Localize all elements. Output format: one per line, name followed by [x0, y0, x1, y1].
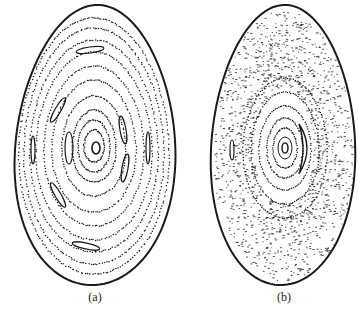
panel-a-poincare-plot: [15, 5, 176, 285]
panel-b-poincare-plot: [211, 5, 356, 285]
panel-b-caption: (b): [264, 290, 304, 305]
panel-a-caption: (a): [75, 290, 115, 305]
poincare-plots: [0, 0, 358, 315]
poincare-figure: (a) (b): [0, 0, 358, 315]
